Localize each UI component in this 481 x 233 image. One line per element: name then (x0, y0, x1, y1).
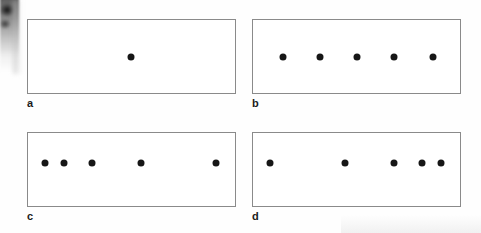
panel-a (27, 19, 236, 94)
panel-c (27, 132, 236, 207)
scan-edge-shadow-artifact (0, 0, 19, 72)
dot (61, 160, 68, 167)
dot-distribution-figure: a b c d (0, 0, 481, 233)
dot (438, 160, 445, 167)
dot (89, 160, 96, 167)
dot (280, 54, 287, 61)
dot (391, 160, 398, 167)
dot (342, 160, 349, 167)
panel-d-box (252, 132, 461, 207)
scan-edge-gradient-artifact (13, 0, 22, 74)
dot (430, 54, 437, 61)
dot (391, 54, 398, 61)
paper-edge-artifact (341, 215, 481, 233)
panel-c-label: c (27, 211, 33, 222)
dot (419, 160, 426, 167)
panel-b-label: b (252, 98, 259, 109)
dot (213, 160, 220, 167)
panel-b (252, 19, 461, 94)
dot (354, 54, 361, 61)
panel-a-label: a (27, 98, 33, 109)
panel-c-box (27, 132, 236, 207)
panel-d (252, 132, 461, 207)
panel-d-label: d (252, 211, 259, 222)
dot (317, 54, 324, 61)
dot (138, 160, 145, 167)
dot (42, 160, 49, 167)
dot (267, 160, 274, 167)
dot (128, 54, 135, 61)
